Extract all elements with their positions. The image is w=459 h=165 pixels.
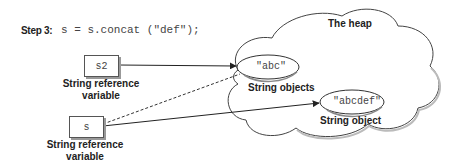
caption-s-line1: String reference — [40, 139, 130, 151]
variable-box-s: s — [69, 116, 104, 138]
caption-s2-line1: String reference — [56, 78, 146, 90]
step-label: Step 3: — [21, 25, 52, 36]
string-object-abc-value: "abc" — [256, 61, 286, 72]
variable-name-s: s — [83, 122, 89, 133]
arrow-s2-to-abc — [118, 65, 236, 66]
caption-s2: String reference variable — [56, 78, 146, 102]
heap-title: The heap — [328, 18, 372, 29]
string-object-abcdef-value: "abcdef" — [333, 96, 381, 107]
string-objects-caption: String objects — [248, 82, 315, 93]
code-statement: s = s.concat ("def"); — [61, 24, 200, 36]
diagram-canvas: Step 3: s = s.concat ("def"); The heap s… — [0, 0, 459, 165]
variable-box-s2: s2 — [84, 55, 119, 77]
caption-s-line2: variable — [40, 151, 130, 163]
caption-s2-line2: variable — [56, 90, 146, 102]
variable-name-s2: s2 — [95, 61, 107, 72]
caption-s: String reference variable — [40, 139, 130, 163]
string-object-caption: String object — [320, 115, 381, 126]
